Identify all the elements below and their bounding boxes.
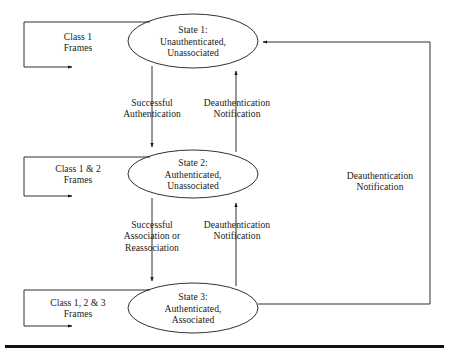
state-1-line-3: Unassociated	[128, 47, 258, 59]
state-2-line-2: Authenticated,	[128, 169, 258, 181]
deauth-lower-line-1: Deauthentication	[187, 219, 287, 230]
class-loop-3-label: Class 1, 2 & 3 Frames	[26, 297, 130, 320]
state-1-line-1: State 1:	[128, 24, 258, 36]
state-2-label: State 2: Authenticated, Unassociated	[128, 157, 258, 192]
state-2-line-1: State 2:	[128, 157, 258, 169]
class-loop-2-label: Class 1 & 2 Frames	[28, 163, 128, 186]
deauthentication-notification-right-label: Deauthentication Notification	[330, 170, 430, 193]
state-1-line-2: Unauthenticated,	[128, 36, 258, 48]
class-loop-2-line-2: Frames	[28, 174, 128, 185]
deauthentication-notification-lower-label: Deauthentication Notification	[187, 219, 287, 242]
state-3-line-2: Authenticated,	[128, 303, 258, 315]
deauth-lower-line-2: Notification	[187, 230, 287, 241]
state-2-line-3: Unassociated	[128, 180, 258, 192]
state-3-line-3: Associated	[128, 314, 258, 326]
deauth-right-line-2: Notification	[330, 181, 430, 192]
state-3-line-1: State 3:	[128, 291, 258, 303]
deauthentication-notification-upper-label: Deauthentication Notification	[187, 97, 287, 120]
class-loop-1-line-2: Frames	[28, 42, 128, 53]
deauth-upper-line-1: Deauthentication	[187, 97, 287, 108]
state-diagram-page: State 1: Unauthenticated, Unassociated S…	[0, 0, 449, 356]
class-loop-3-line-1: Class 1, 2 & 3	[26, 297, 130, 308]
deauth-right-line-1: Deauthentication	[330, 170, 430, 181]
state-1-label: State 1: Unauthenticated, Unassociated	[128, 24, 258, 59]
deauth-upper-line-2: Notification	[187, 108, 287, 119]
class-loop-1-label: Class 1 Frames	[28, 31, 128, 54]
class-loop-2-line-1: Class 1 & 2	[28, 163, 128, 174]
successful-association-line-3: Reassociation	[102, 242, 202, 253]
class-loop-1-line-1: Class 1	[28, 31, 128, 42]
state-3-label: State 3: Authenticated, Associated	[128, 291, 258, 326]
class-loop-3-line-2: Frames	[26, 308, 130, 319]
